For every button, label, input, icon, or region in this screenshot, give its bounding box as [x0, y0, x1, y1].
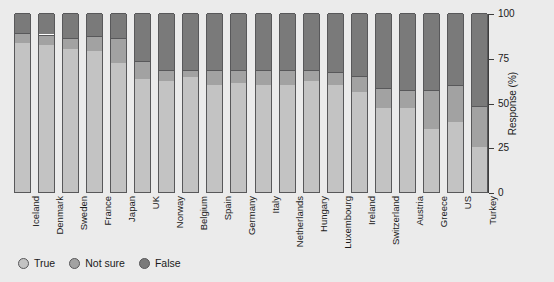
- bar-segment-true: [15, 43, 30, 192]
- bar-segment-true: [400, 108, 415, 192]
- bar-greece[interactable]: [423, 14, 440, 193]
- x-axis-label-austria: Austria: [411, 196, 428, 254]
- bar-segment-not-sure: [376, 88, 391, 108]
- x-axis-label-iceland: Iceland: [27, 196, 44, 254]
- bar-segment-false: [15, 13, 30, 33]
- bar-segment-true: [472, 147, 487, 192]
- bar-segment-not-sure: [63, 38, 78, 49]
- bar-segment-not-sure: [400, 90, 415, 108]
- x-axis-label-france: France: [99, 196, 116, 254]
- bar-segment-false: [448, 13, 463, 85]
- legend-label: False: [155, 258, 181, 269]
- bar-france[interactable]: [86, 14, 103, 193]
- bar-sweden[interactable]: [62, 14, 79, 193]
- bar-segment-false: [472, 13, 487, 106]
- bar-segment-false: [304, 13, 319, 70]
- bar-segment-false: [111, 13, 126, 38]
- bar-netherlands[interactable]: [279, 14, 296, 193]
- bar-segment-false: [424, 13, 439, 90]
- bar-segment-true: [256, 85, 271, 192]
- bar-segment-not-sure: [207, 70, 222, 84]
- bar-segment-not-sure: [87, 36, 102, 50]
- bar-italy[interactable]: [255, 14, 272, 193]
- bar-segment-false: [400, 13, 415, 90]
- x-axis-label-uk: UK: [147, 196, 164, 254]
- bar-segment-false: [159, 13, 174, 70]
- legend-swatch-icon: [139, 258, 150, 269]
- bar-ireland[interactable]: [351, 14, 368, 193]
- bar-segment-false: [39, 13, 54, 34]
- bar-segment-false: [256, 13, 271, 70]
- legend-label: Not sure: [85, 258, 125, 269]
- bar-segment-not-sure: [231, 70, 246, 83]
- bar-turkey[interactable]: [471, 14, 488, 193]
- bar-segment-not-sure: [280, 70, 295, 84]
- legend-swatch-icon: [69, 258, 80, 269]
- bar-segment-true: [207, 85, 222, 192]
- bar-segment-true: [304, 81, 319, 192]
- bar-spain[interactable]: [206, 14, 223, 193]
- bar-austria[interactable]: [399, 14, 416, 193]
- bar-segment-true: [87, 51, 102, 192]
- bar-germany[interactable]: [230, 14, 247, 193]
- bar-uk[interactable]: [134, 14, 151, 193]
- bar-segment-true: [280, 85, 295, 192]
- bar-segment-false: [328, 13, 343, 72]
- bar-segment-true: [376, 108, 391, 192]
- bar-segment-not-sure: [328, 72, 343, 85]
- bar-segment-false: [280, 13, 295, 70]
- bar-switzerland[interactable]: [375, 14, 392, 193]
- bar-segment-not-sure: [111, 38, 126, 63]
- bar-segment-true: [328, 85, 343, 192]
- chart-root: 0255075100 Response (%) IcelandDenmarkSw…: [0, 0, 554, 282]
- x-axis-label-ireland: Ireland: [363, 196, 380, 254]
- x-axis-label-germany: Germany: [243, 196, 260, 254]
- bar-segment-false: [352, 13, 367, 76]
- bar-segment-true: [424, 129, 439, 192]
- legend-item-true[interactable]: True: [18, 258, 55, 269]
- bar-segment-true: [135, 79, 150, 192]
- bar-segment-false: [63, 13, 78, 38]
- y-tick-25: [489, 148, 494, 149]
- bar-segment-true: [352, 92, 367, 192]
- x-axis-label-netherlands: Netherlands: [291, 196, 308, 254]
- x-axis-label-japan: Japan: [123, 196, 140, 254]
- bar-segment-not-sure: [15, 33, 30, 44]
- x-axis-label-denmark: Denmark: [51, 196, 68, 254]
- bar-segment-not-sure: [424, 90, 439, 129]
- bar-segment-not-sure: [256, 70, 271, 84]
- x-axis-label-turkey: Turkey: [484, 196, 501, 254]
- bar-segment-false: [231, 13, 246, 70]
- x-axis-label-hungary: Hungary: [315, 196, 332, 254]
- x-axis-label-luxembourg: Luxembourg: [339, 196, 356, 254]
- y-tick-50: [489, 104, 494, 105]
- bar-segment-not-sure: [183, 70, 198, 77]
- bar-segment-true: [39, 45, 54, 192]
- x-axis-label-us: US: [459, 196, 476, 254]
- bar-segment-true: [159, 81, 174, 192]
- x-axis-label-norway: Norway: [171, 196, 188, 254]
- bar-segment-true: [111, 63, 126, 192]
- bar-belgium[interactable]: [182, 14, 199, 193]
- bar-luxembourg[interactable]: [327, 14, 344, 193]
- bar-us[interactable]: [447, 14, 464, 193]
- bar-segment-true: [231, 83, 246, 192]
- y-tick-0: [489, 193, 494, 194]
- legend-item-false[interactable]: False: [139, 258, 181, 269]
- bar-segment-false: [376, 13, 391, 88]
- bar-norway[interactable]: [158, 14, 175, 193]
- legend-label: True: [34, 258, 55, 269]
- bar-hungary[interactable]: [303, 14, 320, 193]
- bar-segment-not-sure: [352, 76, 367, 92]
- x-axis-label-belgium: Belgium: [195, 196, 212, 254]
- bar-iceland[interactable]: [14, 14, 31, 193]
- x-axis-label-spain: Spain: [219, 196, 236, 254]
- bar-segment-not-sure: [39, 35, 54, 46]
- x-axis-label-italy: Italy: [267, 196, 284, 254]
- bar-segment-false: [207, 13, 222, 70]
- legend: TrueNot sureFalse: [18, 258, 181, 269]
- bar-japan[interactable]: [110, 14, 127, 193]
- bar-denmark[interactable]: [38, 14, 55, 193]
- legend-item-not-sure[interactable]: Not sure: [69, 258, 125, 269]
- x-axis-labels: IcelandDenmarkSwedenFranceJapanUKNorwayB…: [14, 196, 488, 254]
